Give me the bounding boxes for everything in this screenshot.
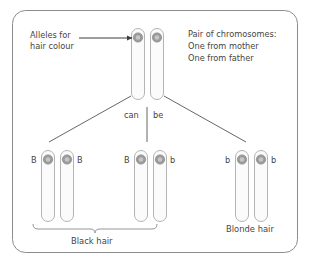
- allele-middle-pair-b: b: [170, 155, 175, 165]
- black-hair-brace: [33, 224, 157, 233]
- allele-right-pair-b: b: [271, 155, 276, 165]
- alleles-label-line2: hair colour: [30, 41, 74, 51]
- genetics-inheritance-diagram: Alleles for hair colour Pair of chromoso…: [0, 0, 310, 269]
- offspring-middle-chromatid-b: [154, 151, 167, 222]
- pair-note-line1: Pair of chromosomes:: [188, 29, 277, 39]
- line-to-right-offspring: [164, 96, 246, 142]
- can-label: can: [124, 110, 139, 120]
- offspring-left-chromatid-a: [42, 151, 55, 222]
- offspring-right-chromatid-a: [236, 151, 249, 222]
- allele-middle-pair-a: B: [124, 155, 130, 165]
- offspring-right-chromatid-b: [255, 151, 268, 222]
- allele-left-pair-a: B: [31, 155, 37, 165]
- inheritance-lines: [49, 96, 246, 142]
- be-label: be: [153, 110, 163, 120]
- parent-chromatid-right: [151, 29, 164, 100]
- black-hair-label: Black hair: [71, 236, 113, 247]
- parent-chromosome-pair: [132, 29, 164, 100]
- offspring-pair-middle: [135, 151, 167, 222]
- pair-note-line3: One from father: [188, 53, 254, 63]
- pair-note-line2: One from mother: [188, 41, 259, 51]
- offspring-middle-chromatid-a: [135, 151, 148, 222]
- line-to-left-offspring: [49, 96, 131, 142]
- offspring-left-chromatid-b: [61, 151, 74, 222]
- parent-chromatid-left: [132, 29, 145, 100]
- offspring-pair-right: [236, 151, 268, 222]
- blonde-hair-label: Blonde hair: [226, 224, 274, 235]
- offspring-pair-left: [42, 151, 74, 222]
- allele-left-pair-b: B: [77, 155, 83, 165]
- allele-right-pair-a: b: [225, 155, 230, 165]
- alleles-label-line1: Alleles for: [30, 30, 71, 40]
